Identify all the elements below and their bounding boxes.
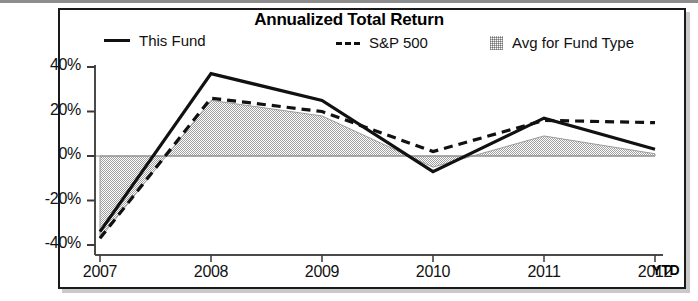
legend-item-this-fund: This Fund bbox=[104, 32, 206, 49]
chart-title: Annualized Total Return bbox=[0, 10, 698, 30]
chart-legend: This Fund S&P 500 Avg for Fund Type bbox=[0, 32, 698, 54]
shaded-area-swatch-icon bbox=[490, 36, 503, 50]
chart-screenshot: Annualized Total Return This Fund S&P 50… bbox=[0, 0, 698, 301]
legend-item-avg-fund-type: Avg for Fund Type bbox=[490, 34, 634, 51]
legend-label-avg-fund-type: Avg for Fund Type bbox=[512, 34, 634, 51]
legend-label-sp500: S&P 500 bbox=[369, 34, 428, 51]
dashed-line-swatch-icon bbox=[336, 42, 360, 45]
solid-line-swatch-icon bbox=[104, 39, 130, 42]
legend-label-this-fund: This Fund bbox=[139, 32, 206, 49]
legend-item-sp500: S&P 500 bbox=[336, 34, 428, 51]
top-divider-gap bbox=[0, 3, 698, 5]
